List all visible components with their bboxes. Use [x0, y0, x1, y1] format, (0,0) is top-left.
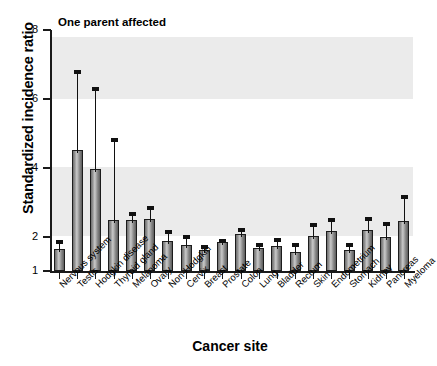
y-tick-6: [43, 98, 51, 100]
y-tick-label-1: 1: [14, 265, 38, 276]
bar: [72, 150, 83, 271]
y-tick-8: [43, 29, 51, 31]
error-bar-line: [95, 87, 96, 172]
error-bar-cap: [183, 235, 190, 239]
error-bar-cap: [147, 206, 154, 210]
error-bar-cap: [129, 212, 136, 216]
error-bar-cap: [111, 138, 118, 142]
error-bar-cap: [274, 238, 281, 242]
error-bar-cap: [56, 240, 63, 244]
error-bar-cap: [74, 70, 81, 74]
shaded-band-upper: [50, 37, 413, 99]
error-bar-cap: [165, 230, 172, 234]
error-bar-cap: [328, 218, 335, 222]
error-bar-cap: [401, 195, 408, 199]
error-bar-cap: [365, 217, 372, 221]
error-bar-line: [404, 195, 405, 225]
error-bar-cap: [219, 239, 226, 243]
error-bar-cap: [310, 223, 317, 227]
error-bar-cap: [292, 243, 299, 247]
y-axis-label: Standardized incidence ratio: [20, 18, 36, 218]
error-bar-cap: [256, 243, 263, 247]
error-bar-cap: [92, 87, 99, 91]
y-tick-1: [43, 270, 51, 272]
error-bar-cap: [383, 222, 390, 226]
bar: [326, 231, 337, 271]
error-bar-line: [114, 138, 115, 223]
y-tick-label-2: 2: [14, 231, 38, 242]
error-bar-line: [77, 70, 78, 153]
error-bar-cap: [346, 243, 353, 247]
y-tick-4: [43, 167, 51, 169]
y-tick-2: [43, 236, 51, 238]
bar: [54, 249, 65, 271]
error-bar-cap: [238, 228, 245, 232]
chart-title: One parent affected: [58, 16, 166, 28]
x-axis-label: Cancer site: [150, 338, 310, 354]
shaded-band-lower: [50, 167, 413, 236]
